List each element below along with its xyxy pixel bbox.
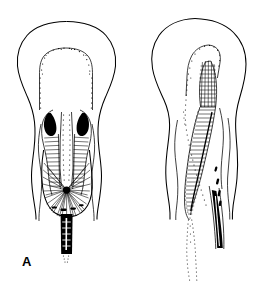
lateral-lobe-right-a <box>72 110 91 195</box>
figure-panel-a: A <box>0 0 133 287</box>
central-canal-a <box>60 112 73 186</box>
basal-stalk-b <box>209 186 224 249</box>
figure-root: A <box>0 0 266 287</box>
chamber-stipple-a <box>39 47 92 108</box>
panel-b-drawing <box>133 0 266 287</box>
outer-outline-b <box>152 19 246 221</box>
inner-chamber-b <box>183 45 220 206</box>
hatched-band-b <box>184 107 215 220</box>
basal-stalk-a <box>61 214 73 263</box>
apex-mesh-b <box>199 61 216 107</box>
chamber-stipple-b <box>183 45 220 206</box>
basal-dashes-a <box>52 204 84 211</box>
fan-hub-a <box>63 187 71 194</box>
canal-stipple-a <box>63 114 71 180</box>
stalk-stipple-a <box>63 256 69 263</box>
panel-a-drawing <box>0 0 133 287</box>
inner-chamber-a <box>39 47 92 110</box>
figure-panel-b: B <box>133 0 266 287</box>
lateral-lobe-left-a <box>42 110 61 195</box>
panel-label-a: A <box>22 255 31 268</box>
dotted-trail-b <box>186 218 197 281</box>
